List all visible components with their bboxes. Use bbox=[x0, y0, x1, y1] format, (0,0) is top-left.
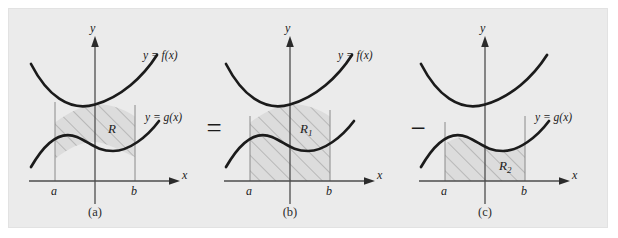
operator-minus: − bbox=[401, 115, 435, 142]
panel-c-axis-label-x: x bbox=[571, 168, 578, 182]
figure-plate: y = f(x) y = g(x) R a b x y (a) bbox=[8, 8, 608, 228]
figure-container: y = f(x) y = g(x) R a b x y (a) bbox=[0, 0, 618, 238]
panel-c-x-axis-arrowhead bbox=[559, 177, 570, 185]
panel-a-label-curve-f: y = f(x) bbox=[142, 49, 178, 62]
panel-a-tick-label-a: a bbox=[51, 184, 57, 198]
operator-equals: = bbox=[197, 115, 231, 142]
panel-b-caption: (b) bbox=[270, 205, 310, 220]
panel-a-graphic: y = f(x) y = g(x) R a b x y bbox=[17, 9, 217, 229]
panel-a-curve-f bbox=[31, 55, 157, 106]
panel-b-region-label-subscript: 1 bbox=[308, 128, 313, 138]
panel-a-axis-label-x: x bbox=[181, 168, 188, 182]
panel-c-y-axis-arrowhead bbox=[481, 36, 489, 47]
panel-b-x-axis-arrowhead bbox=[364, 177, 375, 185]
panel-c-label-curve-g: y = g(x) bbox=[534, 111, 572, 124]
panel-a-y-axis-arrowhead bbox=[91, 36, 99, 47]
panel-b-axis-label-y: y bbox=[284, 21, 291, 35]
panel-c-caption: (c) bbox=[465, 205, 505, 220]
panel-b-curve-f bbox=[226, 55, 352, 106]
panel-a-axis-label-y: y bbox=[89, 21, 96, 35]
panel-c-region-label-base: R bbox=[498, 158, 507, 173]
panel-a-region-label: R bbox=[107, 121, 116, 136]
panel-b-axis-label-x: x bbox=[376, 168, 383, 182]
panel-b-graphic: y = f(x) R1 a b x y bbox=[212, 9, 412, 229]
panel-c: y = g(x) R2 a b x y (c) bbox=[407, 9, 607, 229]
panel-b-label-curve-f: y = f(x) bbox=[337, 49, 373, 62]
panel-a: y = f(x) y = g(x) R a b x y (a) bbox=[17, 9, 217, 229]
panel-c-axis-label-y: y bbox=[479, 21, 486, 35]
panel-b-tick-label-a: a bbox=[246, 184, 252, 198]
panel-c-tick-label-b: b bbox=[521, 184, 527, 198]
panel-c-curve-f bbox=[421, 55, 547, 106]
panel-a-tick-label-b: b bbox=[131, 184, 137, 198]
panel-a-x-axis-arrowhead bbox=[169, 177, 180, 185]
panel-b: y = f(x) R1 a b x y (b) bbox=[212, 9, 412, 229]
panel-b-tick-label-b: b bbox=[326, 184, 332, 198]
panel-a-caption: (a) bbox=[75, 205, 115, 220]
panel-a-label-curve-g: y = g(x) bbox=[144, 111, 182, 124]
panel-c-region-label-subscript: 2 bbox=[507, 165, 512, 175]
panel-b-y-axis-arrowhead bbox=[286, 36, 294, 47]
panel-c-tick-label-a: a bbox=[441, 184, 447, 198]
panel-b-region-label-base: R bbox=[299, 121, 308, 136]
panel-c-graphic: y = g(x) R2 a b x y bbox=[407, 9, 607, 229]
